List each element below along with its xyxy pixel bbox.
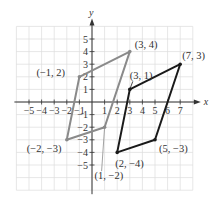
coordinate-plane-figure: xy −5−4−3−2−1123456754321−1−2−3−4−5 (−1,…	[0, 0, 217, 197]
vertex-label: (3, 4)	[135, 39, 158, 51]
x-tick-label: −2	[61, 105, 72, 116]
x-tick-label: 2	[115, 105, 120, 116]
vertex-label: (5, −3)	[159, 143, 188, 155]
x-tick-label: −3	[49, 105, 60, 116]
x-tick-label: 4	[140, 105, 145, 116]
x-axis-label: x	[203, 96, 209, 107]
vertex-label: (2, −4)	[115, 158, 144, 170]
y-axis-arrow-icon	[90, 18, 95, 25]
x-axis-arrow-icon	[194, 100, 201, 105]
y-tick-label: 5	[83, 34, 88, 45]
x-tick-label: 3	[127, 105, 132, 116]
vertex-point	[178, 62, 182, 66]
y-tick-label: −2	[77, 122, 88, 133]
y-tick-label: 1	[83, 84, 88, 95]
vertex-point	[115, 151, 119, 155]
x-tick-label: 1	[102, 105, 107, 116]
vertex-label: (−2, −3)	[27, 143, 62, 155]
y-tick-label: −4	[77, 147, 88, 158]
axes: xy	[14, 7, 208, 194]
vertex-point	[128, 50, 132, 54]
x-tick-label: −5	[24, 105, 35, 116]
vertex-label: (7, 3)	[182, 50, 205, 62]
vertex-label: (3, 1)	[130, 70, 153, 82]
y-tick-label: 4	[83, 46, 88, 57]
y-tick-label: 3	[83, 59, 88, 70]
y-tick-label: −5	[77, 160, 88, 171]
y-tick-label: −1	[77, 109, 88, 120]
x-tick-label: 7	[178, 105, 183, 116]
vertex-point	[65, 138, 69, 142]
vertex-point	[153, 138, 157, 142]
coordinate-plane: xy −5−4−3−2−1123456754321−1−2−3−4−5 (−1,…	[0, 0, 217, 197]
x-tick-label: 5	[153, 105, 158, 116]
x-tick-label: −4	[36, 105, 47, 116]
vertex-label: (1, −2)	[95, 170, 124, 182]
label-leader-line	[102, 127, 105, 171]
parallelogram-gray	[67, 52, 130, 140]
vertex-label: (−1, 2)	[36, 67, 65, 79]
vertex-point	[78, 75, 82, 79]
y-axis-label: y	[88, 7, 94, 18]
